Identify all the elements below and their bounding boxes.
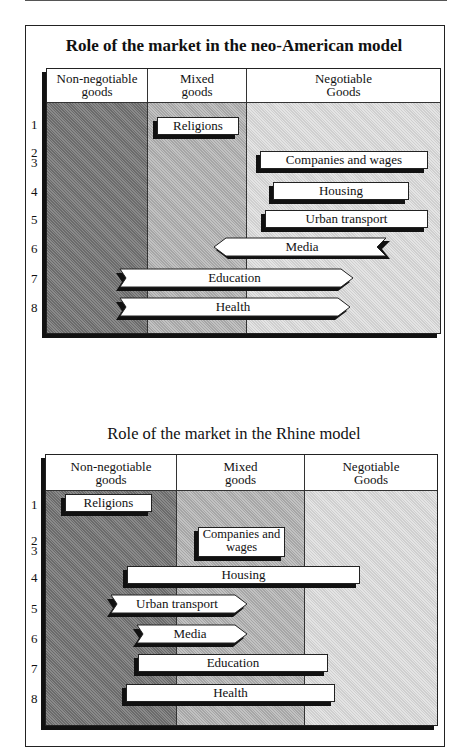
arrow-media: Media — [133, 624, 247, 644]
header-text: goods — [46, 473, 176, 486]
header-text: Goods — [305, 473, 437, 486]
header-text: Goods — [247, 85, 440, 98]
chart1-title: Role of the market in the neo-American m… — [0, 36, 468, 56]
chart2-rhine: Non-negotiablegoods Mixedgoods Negotiabl… — [45, 454, 438, 726]
row-number: 3 — [31, 545, 45, 557]
row-number: 7 — [31, 663, 45, 675]
row-number: 5 — [31, 214, 45, 226]
header-non-negotiable: Non-negotiablegoods — [46, 455, 176, 491]
bar-religions: Religions — [157, 117, 239, 135]
row-number: 1 — [31, 119, 45, 131]
row-number: 4 — [31, 186, 45, 198]
row-number: 8 — [31, 693, 45, 705]
bar-housing: Housing — [273, 182, 409, 200]
header-non-negotiable: Non-negotiablegoods — [47, 69, 147, 103]
row-number: 6 — [31, 243, 45, 255]
header-text: goods — [177, 473, 304, 486]
arrow-urban-transport: Urban transport — [107, 594, 247, 614]
chart1-grid: Non-negotiablegoods Mixedgoods Negotiabl… — [46, 68, 441, 334]
arrow-education: Education — [116, 268, 353, 288]
arrow-media-label: Media — [133, 626, 247, 642]
bar-urban-transport: Urban transport — [265, 210, 428, 228]
col-mixed — [147, 69, 246, 333]
chart1-neo-american: Non-negotiablegoods Mixedgoods Negotiabl… — [46, 68, 441, 334]
arrow-education-label: Education — [116, 270, 353, 286]
bar-housing: Housing — [127, 566, 360, 584]
arrow-urban-transport-label: Urban transport — [107, 596, 247, 612]
row-number: 8 — [31, 302, 45, 314]
col-negotiable — [246, 69, 440, 333]
arrow-health-label: Health — [116, 299, 350, 315]
chart2-title: Role of the market in the Rhine model — [0, 424, 468, 444]
header-negotiable: NegotiableGoods — [304, 455, 437, 491]
row-number: 5 — [31, 603, 45, 615]
page-top-rule — [25, 0, 447, 1]
bar-label: wages — [199, 541, 284, 554]
header-mixed: Mixedgoods — [176, 455, 304, 491]
header-mixed: Mixedgoods — [147, 69, 246, 103]
arrow-media: Media — [214, 237, 390, 257]
col-non-negotiable — [47, 69, 147, 333]
header-text: goods — [47, 85, 147, 98]
header-text: goods — [148, 85, 246, 98]
bar-education: Education — [138, 654, 328, 672]
row-number: 3 — [31, 157, 45, 169]
bar-health: Health — [126, 684, 335, 702]
bar-religions: Religions — [65, 494, 152, 512]
arrow-health: Health — [116, 297, 350, 317]
bar-companies-and-wages: Companies and wages — [198, 527, 285, 557]
row-number: 6 — [31, 633, 45, 645]
row-number: 1 — [31, 499, 45, 511]
arrow-media-label: Media — [214, 239, 390, 255]
bar-companies-and-wages: Companies and wages — [260, 151, 428, 169]
header-negotiable: NegotiableGoods — [246, 69, 440, 103]
row-number: 4 — [31, 572, 45, 584]
row-number: 7 — [31, 273, 45, 285]
